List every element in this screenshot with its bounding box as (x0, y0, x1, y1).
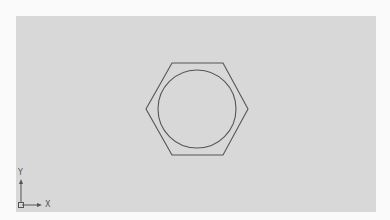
ucs-x-arrow-icon (37, 203, 42, 207)
ucs-y-label: Y (18, 169, 23, 177)
hexagon-shape[interactable] (146, 63, 248, 155)
drawing-canvas[interactable] (0, 0, 390, 220)
ucs-y-arrow-icon (19, 179, 23, 184)
ucs-x-label: X (45, 201, 50, 209)
ucs-icon (19, 179, 43, 208)
circle-shape[interactable] (158, 70, 236, 148)
